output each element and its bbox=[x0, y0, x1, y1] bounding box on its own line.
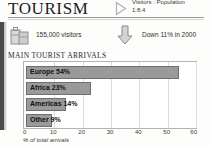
x-tick-label: 20 bbox=[78, 129, 85, 135]
x-tick-label: 0 bbox=[23, 129, 26, 135]
bar-label: Africa 23% bbox=[30, 84, 66, 91]
gridline bbox=[196, 62, 197, 128]
bar-label: Americas 14% bbox=[30, 100, 77, 107]
bar-series: Europe 54%Africa 23%Americas 14%Other 9% bbox=[24, 62, 196, 128]
chart-title: MAIN TOURIST ARRIVALS bbox=[8, 51, 106, 60]
x-tick-label: 10 bbox=[50, 129, 57, 135]
header-divider bbox=[8, 17, 204, 18]
x-axis-label: % of total arrivals bbox=[23, 137, 69, 143]
stat-row: 155,000 visitors Down 11% in 2000 bbox=[6, 22, 206, 50]
luggage-icon bbox=[8, 23, 32, 47]
bar-label: Other 9% bbox=[30, 116, 61, 123]
bar-chart-plot-area: Europe 54%Africa 23%Americas 14%Other 9% bbox=[23, 61, 197, 129]
x-tick-label: 30 bbox=[107, 129, 114, 135]
bar-label: Europe 54% bbox=[30, 68, 70, 75]
bar-row: Europe 54% bbox=[24, 66, 196, 79]
ratio-label: Visitors : Population bbox=[132, 0, 185, 7]
trend-label: Down 11% in 2000 bbox=[142, 31, 196, 38]
x-tick-label: 40 bbox=[135, 129, 142, 135]
ratio-value: 1:8.4 bbox=[132, 7, 185, 15]
visitors-population-ratio: Visitors : Population 1:8.4 bbox=[132, 0, 185, 14]
triangle-right-icon bbox=[115, 1, 127, 16]
bar-row: Africa 23% bbox=[24, 82, 196, 95]
bar-row: Americas 14% bbox=[24, 98, 196, 111]
header-divider-secondary bbox=[8, 19, 204, 20]
bar-row: Other 9% bbox=[24, 114, 196, 127]
x-tick-label: 60 bbox=[190, 129, 197, 135]
x-tick-label: 50 bbox=[163, 129, 170, 135]
visitors-count-label: 155,000 visitors bbox=[36, 31, 82, 38]
tourism-infographic-panel: TOURISM Visitors : Population 1:8.4 bbox=[0, 0, 211, 147]
arrow-down-icon bbox=[114, 23, 138, 47]
